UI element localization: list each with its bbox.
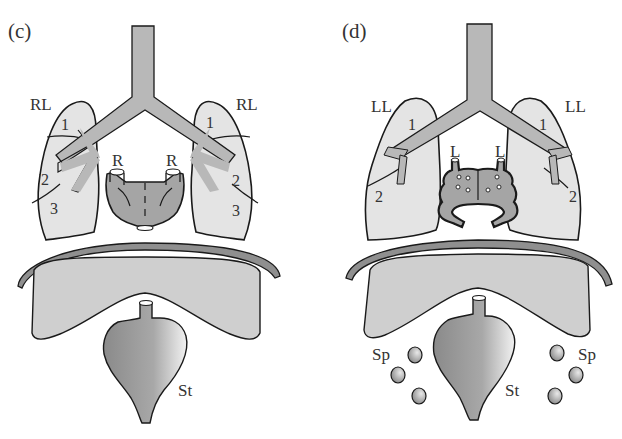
lung-label-left-d: LL <box>371 97 392 116</box>
situs-diagram: (c) RL RL 1 2 3 1 2 3 R R <box>0 0 622 439</box>
atrium-label: L <box>495 142 505 161</box>
spleen <box>391 367 405 383</box>
panel-c: (c) RL RL 1 2 3 1 2 3 R R <box>8 19 280 423</box>
panel-label-d: (d) <box>342 19 367 43</box>
vessel-opening <box>137 226 153 231</box>
stomach-label: St <box>178 381 192 400</box>
lobe-label: 3 <box>50 200 58 217</box>
stomach-label: St <box>505 381 519 400</box>
lobe-label: 1 <box>408 116 416 133</box>
lobe-label: 3 <box>232 202 240 219</box>
lobe-label: 1 <box>61 116 69 133</box>
lung-label-right-d: LL <box>565 97 586 116</box>
spleen <box>550 345 564 361</box>
stomach-c <box>104 303 187 423</box>
panel-label-c: (c) <box>8 19 31 43</box>
lung-label-right-c: RL <box>236 95 258 114</box>
lobe-label: 2 <box>41 171 49 188</box>
panel-d: (d) LL LL 1 2 1 2 L L <box>342 19 612 420</box>
lobe-label: 1 <box>539 116 547 133</box>
lung-label-left-c: RL <box>30 95 52 114</box>
atrium-label: R <box>112 151 124 170</box>
trachea-c <box>56 26 235 164</box>
esophagus-opening <box>140 301 153 306</box>
spleen <box>548 388 562 404</box>
spleen-label-left: Sp <box>372 345 390 364</box>
spleen <box>569 367 583 383</box>
lobe-label: 2 <box>375 188 383 205</box>
esophagus-opening <box>473 296 486 301</box>
atrium-label: L <box>450 142 460 161</box>
spleen-label-right: Sp <box>578 345 596 364</box>
lobe-label: 2 <box>569 188 577 205</box>
atrium-label: R <box>166 151 178 170</box>
lobe-label: 1 <box>206 114 214 131</box>
spleen <box>412 388 426 404</box>
stomach-d <box>434 298 515 420</box>
lobe-label: 2 <box>232 172 240 189</box>
trachea-d <box>393 24 565 158</box>
spleen <box>408 347 422 363</box>
